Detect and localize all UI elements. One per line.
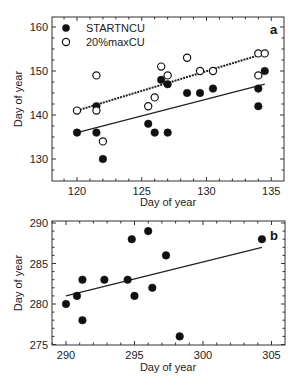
data-point-open [93, 72, 100, 79]
data-point-filled [101, 276, 109, 284]
data-point-open [158, 63, 165, 70]
data-point-filled [176, 333, 184, 341]
data-point-filled [62, 300, 70, 308]
panel-a-fit-lines [77, 53, 265, 132]
x-tick-label: 300 [194, 349, 212, 361]
data-point-open [255, 72, 262, 79]
y-tick-label: 130 [30, 153, 48, 165]
data-point-filled [209, 85, 217, 93]
data-point-filled [151, 129, 159, 137]
data-point-filled [144, 227, 152, 235]
data-point-filled [73, 129, 81, 137]
data-point-filled [254, 102, 262, 110]
panel-b-ylabel: Day of year [12, 255, 24, 312]
fit-line [77, 84, 265, 132]
x-tick-label: 130 [197, 185, 215, 197]
data-point-filled [254, 85, 262, 93]
data-point-filled [99, 155, 107, 163]
y-tick-label: 290 [30, 217, 48, 229]
x-tick-label: 290 [57, 349, 75, 361]
panel-b-xlabel: Day of year [140, 361, 197, 373]
y-tick-label: 285 [30, 258, 48, 270]
y-tick-label: 280 [30, 298, 48, 310]
y-tick-label: 275 [30, 339, 48, 351]
data-point-open [261, 50, 268, 57]
panel-b-label: b [270, 228, 278, 243]
data-point-open [164, 72, 171, 79]
data-point-open [145, 103, 152, 110]
data-point-open [183, 54, 190, 61]
panel-b-chart: 290295300305275280285290 b Day of year D… [12, 217, 285, 373]
data-point-open [99, 138, 106, 145]
y-tick-label: 140 [30, 109, 48, 121]
x-tick-label: 120 [68, 185, 86, 197]
data-point-open [73, 107, 80, 114]
data-point-filled [144, 120, 152, 128]
panel-a-xlabel: Day of year [140, 196, 197, 208]
panel-a-ylabel: Day of year [12, 71, 24, 128]
y-tick-label: 160 [30, 21, 48, 33]
data-point-filled [164, 80, 172, 88]
legend-20pct-label: 20%maxCU [86, 36, 145, 48]
y-tick-label: 150 [30, 65, 48, 77]
x-tick-label: 135 [262, 185, 280, 197]
data-point-filled [128, 235, 136, 243]
data-point-filled [79, 316, 87, 324]
data-point-filled [93, 129, 101, 137]
legend: STARTNCU 20%maxCU [62, 22, 145, 48]
data-point-filled [79, 276, 87, 284]
figure: 120125130135130140150160 STARTNCU 20%max… [0, 0, 300, 388]
data-point-open [209, 67, 216, 74]
legend-filled-marker [62, 24, 70, 32]
panel-a-chart: 120125130135130140150160 STARTNCU 20%max… [12, 17, 284, 208]
x-tick-label: 295 [125, 349, 143, 361]
data-point-filled [196, 89, 204, 97]
legend-startncu-label: STARTNCU [86, 22, 145, 34]
panel-b-frame [52, 221, 285, 345]
data-point-filled [162, 252, 170, 260]
data-point-filled [149, 284, 157, 292]
data-point-filled [73, 292, 81, 300]
panel-a-label: a [270, 22, 278, 37]
data-point-filled [258, 235, 266, 243]
x-tick-label: 305 [262, 349, 280, 361]
panel-b-points [62, 227, 266, 340]
data-point-open [196, 67, 203, 74]
data-point-filled [131, 292, 139, 300]
data-point-filled [164, 129, 172, 137]
data-point-open [151, 94, 158, 101]
panel-b-ticks: 290295300305275280285290 [30, 217, 285, 361]
data-point-filled [124, 276, 132, 284]
legend-open-marker [62, 38, 69, 45]
panel-a-points [73, 50, 268, 163]
data-point-open [93, 107, 100, 114]
data-point-filled [183, 89, 191, 97]
